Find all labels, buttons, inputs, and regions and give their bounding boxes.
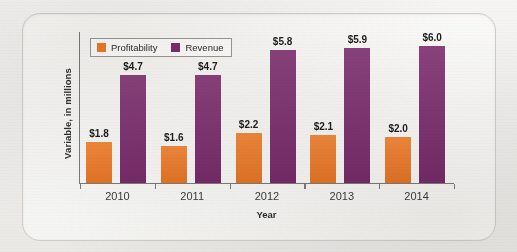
x-tick-origin (80, 184, 81, 189)
bar-chart: Variable, in millions Year $1.8$4.7$1.6$… (0, 0, 517, 252)
x-tick-1 (230, 184, 231, 189)
legend-swatch-revenue-icon (171, 43, 180, 52)
bar-group-2012: $2.2$5.8 (230, 32, 305, 183)
bar-shading (310, 135, 336, 183)
y-axis-title: Variable, in millions (62, 39, 73, 189)
bar-revenue-2011[interactable] (195, 75, 221, 183)
value-label-revenue-2014: $6.0 (410, 32, 454, 43)
bar-shading (344, 48, 370, 183)
x-tick-label-2012: 2012 (232, 190, 302, 202)
bar-profitability-2012[interactable] (236, 133, 262, 183)
legend-item-revenue[interactable]: Revenue (171, 42, 223, 53)
legend-swatch-profitability-icon (97, 43, 106, 52)
bar-profitability-2014[interactable] (385, 137, 411, 183)
x-tick-label-2014: 2014 (382, 190, 452, 202)
bar-shading (86, 142, 112, 183)
legend-label-profitability: Profitability (111, 42, 157, 53)
bar-revenue-2010[interactable] (120, 75, 146, 183)
value-label-profitability-2011: $1.6 (152, 132, 196, 143)
bar-profitability-2011[interactable] (161, 146, 187, 183)
scanned-page: Variable, in millions Year $1.8$4.7$1.6$… (0, 0, 517, 252)
bar-shading (270, 50, 296, 183)
value-label-profitability-2010: $1.8 (77, 128, 121, 139)
bar-profitability-2010[interactable] (86, 142, 112, 183)
x-tick-4 (454, 184, 455, 189)
x-tick-label-2011: 2011 (157, 190, 227, 202)
value-label-revenue-2013: $5.9 (335, 34, 379, 45)
value-label-revenue-2012: $5.8 (261, 36, 305, 47)
bar-revenue-2014[interactable] (419, 46, 445, 183)
x-tick-0 (155, 184, 156, 189)
bar-revenue-2012[interactable] (270, 50, 296, 183)
legend-label-revenue: Revenue (185, 42, 223, 53)
x-tick-label-2013: 2013 (307, 190, 377, 202)
value-label-revenue-2010: $4.7 (111, 61, 155, 72)
x-axis-title: Year (79, 209, 454, 220)
value-label-profitability-2014: $2.0 (376, 123, 420, 134)
bar-group-2013: $2.1$5.9 (304, 32, 379, 183)
bar-shading (419, 46, 445, 183)
value-label-revenue-2011: $4.7 (186, 61, 230, 72)
x-axis-line (79, 183, 454, 184)
legend-item-profitability[interactable]: Profitability (97, 42, 157, 53)
value-label-profitability-2013: $2.1 (301, 121, 345, 132)
bar-shading (385, 137, 411, 183)
bar-shading (195, 75, 221, 183)
bar-profitability-2013[interactable] (310, 135, 336, 183)
bar-revenue-2013[interactable] (344, 48, 370, 183)
bar-group-2014: $2.0$6.0 (379, 32, 454, 183)
x-tick-3 (379, 184, 380, 189)
chart-legend: Profitability Revenue (90, 38, 232, 57)
bar-shading (161, 146, 187, 183)
value-label-profitability-2012: $2.2 (227, 119, 271, 130)
x-tick-label-2010: 2010 (82, 190, 152, 202)
bar-shading (236, 133, 262, 183)
bar-shading (120, 75, 146, 183)
x-tick-2 (304, 184, 305, 189)
